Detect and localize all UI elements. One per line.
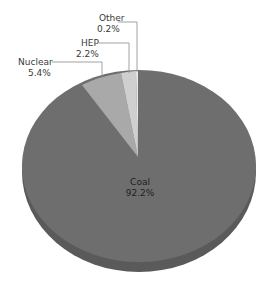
label-nuclear-value: 5.4%: [28, 68, 51, 78]
label-hep-value: 2.2%: [76, 49, 99, 59]
slice-coal: [22, 70, 256, 262]
label-coal-value: 92.2%: [126, 188, 155, 198]
leader-line-other: [118, 22, 137, 72]
pie-chart: Other 0.2% HEP 2.2% Nuclear 5.4% Coal 92…: [0, 0, 268, 288]
leader-line-hep: [99, 43, 129, 73]
label-hep-name: HEP: [81, 38, 99, 48]
label-nuclear-name: Nuclear: [18, 57, 53, 67]
label-other-value: 0.2%: [97, 24, 120, 34]
label-coal-name: Coal: [130, 177, 150, 187]
leader-line-nuclear: [52, 62, 102, 78]
label-other-name: Other: [99, 13, 125, 23]
